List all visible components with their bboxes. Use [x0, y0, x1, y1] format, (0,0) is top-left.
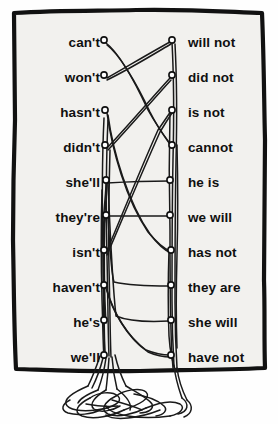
peg-right-1[interactable] [169, 37, 175, 43]
peg-right-8[interactable] [168, 282, 174, 288]
expansion-label-2: did not [188, 71, 234, 85]
contraction-label-6: they're [56, 211, 100, 225]
contraction-label-2: won't [65, 71, 100, 85]
contraction-label-4: didn't [63, 141, 100, 155]
contractions-puzzle: can't won't hasn't didn't she'll they're… [0, 0, 278, 424]
expansion-label-3: is not [188, 106, 225, 120]
peg-right-9[interactable] [168, 317, 174, 323]
expansion-label-1: will not [188, 36, 235, 50]
contraction-label-7: isn't [72, 246, 100, 260]
contraction-label-3: hasn't [60, 106, 100, 120]
expansion-label-7: has not [188, 246, 237, 260]
peg-left-5[interactable] [103, 177, 109, 183]
expansion-label-6: we will [188, 211, 232, 225]
peg-left-7[interactable] [101, 247, 107, 253]
peg-right-4[interactable] [169, 142, 175, 148]
expansion-label-4: cannot [188, 141, 233, 155]
peg-left-4[interactable] [102, 142, 108, 148]
contraction-label-10: we'll [71, 351, 100, 365]
contraction-label-1: can't [69, 36, 100, 50]
peg-left-2[interactable] [101, 72, 107, 78]
expansion-label-9: she will [188, 316, 238, 330]
contraction-label-5: she'll [65, 176, 100, 190]
peg-right-3[interactable] [169, 107, 175, 113]
peg-left-10[interactable] [101, 352, 107, 358]
peg-right-10[interactable] [168, 352, 174, 358]
contraction-label-9: he's [73, 316, 100, 330]
peg-left-6[interactable] [103, 212, 109, 218]
contraction-label-8: haven't [53, 281, 100, 295]
expansion-label-8: they are [188, 281, 241, 295]
expansion-label-10: have not [188, 351, 244, 365]
peg-left-1[interactable] [101, 37, 107, 43]
peg-right-7[interactable] [168, 247, 174, 253]
expansion-label-5: he is [188, 176, 219, 190]
peg-left-9[interactable] [101, 317, 107, 323]
peg-left-8[interactable] [101, 282, 107, 288]
peg-right-6[interactable] [167, 212, 173, 218]
peg-right-2[interactable] [169, 72, 175, 78]
peg-left-3[interactable] [102, 107, 108, 113]
peg-right-5[interactable] [167, 177, 173, 183]
